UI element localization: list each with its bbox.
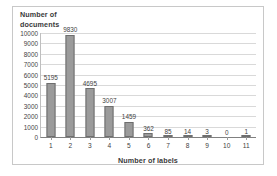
x-axis-tick-label: 8 bbox=[186, 142, 190, 149]
bar-slot: 3626 bbox=[139, 33, 159, 137]
x-axis-tick-label: 11 bbox=[243, 142, 250, 149]
bar-slot: 30074 bbox=[100, 33, 120, 137]
bar[interactable] bbox=[46, 83, 55, 137]
y-axis-tick-label: 9000 bbox=[24, 40, 38, 47]
x-axis-tick-mark bbox=[168, 137, 169, 140]
bar-slot: 111 bbox=[236, 33, 256, 137]
x-axis-tick-label: 9 bbox=[205, 142, 209, 149]
chart-figure: Number of documents 10000900080007000600… bbox=[0, 0, 277, 176]
y-axis-title-line2: documents bbox=[20, 20, 90, 30]
bar[interactable] bbox=[105, 106, 114, 137]
y-axis-title-line1: Number of bbox=[20, 10, 90, 20]
x-axis-tick-label: 7 bbox=[166, 142, 170, 149]
y-axis-tick-label: 0 bbox=[34, 134, 38, 141]
x-axis-tick-mark bbox=[227, 137, 228, 140]
y-axis-tick-label: 6000 bbox=[24, 71, 38, 78]
bar-value-label: 85 bbox=[164, 128, 171, 135]
bar[interactable] bbox=[85, 88, 94, 137]
y-axis-tick-label: 2000 bbox=[24, 113, 38, 120]
x-axis-tick-label: 6 bbox=[147, 142, 151, 149]
y-axis-tick-label: 3000 bbox=[24, 102, 38, 109]
x-axis-tick-mark bbox=[109, 137, 110, 140]
plot-area: 1000090008000700060005000400030002000100… bbox=[40, 33, 256, 138]
bar-slot: 51951 bbox=[41, 33, 61, 137]
y-axis-tick-label: 10000 bbox=[20, 30, 38, 37]
x-axis-tick-label: 1 bbox=[49, 142, 53, 149]
bars-layer: 5195198302469533007414595362685714839010… bbox=[41, 33, 256, 137]
x-axis-tick-label: 3 bbox=[88, 142, 92, 149]
bar-value-label: 9830 bbox=[63, 26, 77, 33]
bar-value-label: 3 bbox=[205, 128, 209, 135]
bar-value-label: 4695 bbox=[83, 80, 97, 87]
x-axis-tick-label: 4 bbox=[108, 142, 112, 149]
bar-slot: 857 bbox=[158, 33, 178, 137]
x-axis-tick-label: 10 bbox=[223, 142, 230, 149]
x-axis-tick-mark bbox=[207, 137, 208, 140]
bar-value-label: 5195 bbox=[44, 74, 58, 81]
bar-value-label: 1 bbox=[244, 128, 248, 135]
bar-slot: 98302 bbox=[61, 33, 81, 137]
bar-value-label: 362 bbox=[143, 125, 154, 132]
y-axis-tick-label: 5000 bbox=[24, 82, 38, 89]
bar-value-label: 1459 bbox=[122, 113, 136, 120]
bar-slot: 148 bbox=[178, 33, 198, 137]
x-axis-tick-mark bbox=[188, 137, 189, 140]
bar-value-label: 0 bbox=[225, 129, 229, 136]
x-axis-tick-mark bbox=[51, 137, 52, 140]
bar-slot: 010 bbox=[217, 33, 237, 137]
y-axis-tick-label: 1000 bbox=[24, 123, 38, 130]
x-axis-title: Number of labels bbox=[40, 156, 256, 165]
bar-slot: 39 bbox=[197, 33, 217, 137]
bar[interactable] bbox=[66, 35, 75, 137]
x-axis-tick-mark bbox=[129, 137, 130, 140]
bar-value-label: 3007 bbox=[102, 97, 116, 104]
bar-slot: 46953 bbox=[80, 33, 100, 137]
bar-value-label: 14 bbox=[184, 128, 191, 135]
x-axis-tick-label: 5 bbox=[127, 142, 131, 149]
y-axis-tick-label: 4000 bbox=[24, 92, 38, 99]
y-axis-tick-label: 8000 bbox=[24, 50, 38, 57]
x-axis-tick-mark bbox=[70, 137, 71, 140]
bar-slot: 14595 bbox=[119, 33, 139, 137]
x-axis-tick-mark bbox=[148, 137, 149, 140]
y-axis-tick-label: 7000 bbox=[24, 61, 38, 68]
y-axis-title: Number of documents bbox=[20, 10, 90, 29]
x-axis-tick-label: 2 bbox=[68, 142, 72, 149]
x-axis-tick-mark bbox=[246, 137, 247, 140]
x-axis-tick-mark bbox=[90, 137, 91, 140]
bar[interactable] bbox=[124, 122, 133, 137]
